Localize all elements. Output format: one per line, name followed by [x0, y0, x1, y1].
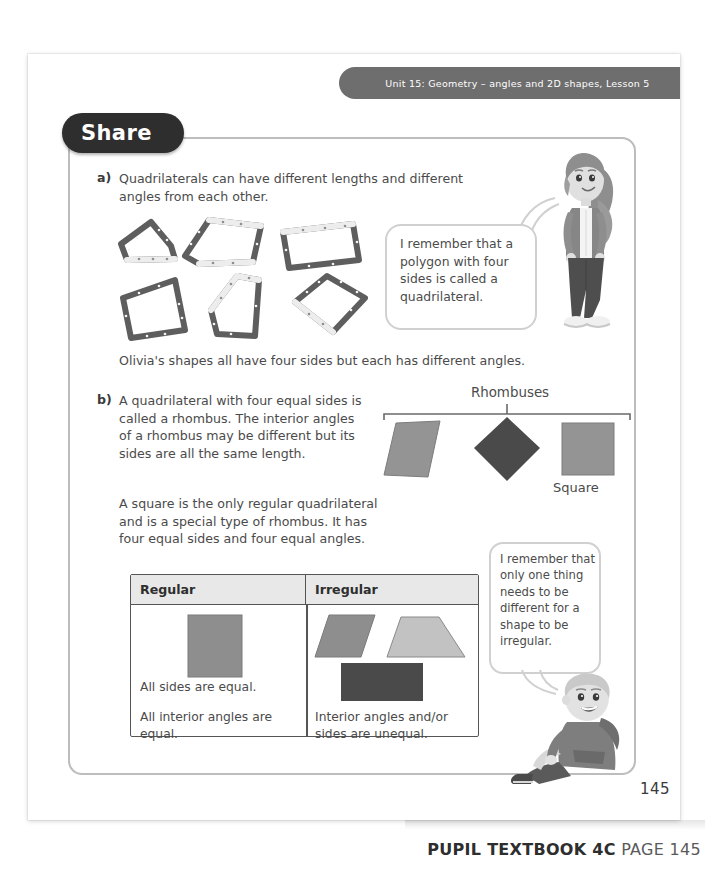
geostrip-shape-5 [211, 276, 259, 336]
slanted-parallelogram-rhombus [384, 421, 440, 477]
regular-irregular-table: Regular Irregular All sides are equal. A… [130, 574, 479, 737]
sheet-shadow [405, 820, 705, 830]
irregular-cell-shapes [313, 611, 473, 711]
share-label: Share [81, 121, 152, 145]
part-a-text: Quadrilaterals can have different length… [119, 170, 479, 205]
speech-bubble-boy-text: I remember that only one thing needs to … [500, 551, 600, 649]
diamond-rhombus [474, 417, 540, 481]
boy-character-illustration [505, 670, 645, 788]
part-a-marker: a) [97, 170, 111, 185]
speech-bubble-girl: I remember that a polygon with four side… [385, 224, 537, 330]
table-vertical-divider [306, 605, 308, 736]
regular-cell-line-2: All interior angles are equal. [140, 709, 300, 742]
bottom-caption: PUPIL TEXTBOOK 4C PAGE 145 [427, 840, 701, 859]
part-b-marker: b) [97, 392, 112, 407]
part-b-text-2: A square is the only regular quadrilater… [119, 495, 384, 548]
light-grey-trapezium [387, 617, 465, 657]
geostrip-shape-3 [283, 224, 359, 268]
square-label: Square [553, 480, 599, 495]
speech-bubble-girl-text: I remember that a polygon with four side… [400, 235, 530, 305]
geostrip-shape-6 [295, 276, 365, 332]
irregular-cell-line-1: Interior angles and/or sides are unequal… [315, 709, 473, 742]
regular-cell-line-1: All sides are equal. [140, 679, 300, 696]
share-section-pill: Share [62, 113, 184, 153]
girl-character-illustration [536, 140, 634, 336]
unit-banner: Unit 15: Geometry – angles and 2D shapes… [339, 67, 680, 99]
geostrip-shape-2 [185, 220, 261, 264]
square-rhombus [562, 423, 614, 475]
olivia-caption: Olivia's shapes all have four sides but … [119, 352, 549, 370]
geostrip-shape-1 [121, 222, 175, 260]
geostrip-shape-4 [123, 280, 185, 338]
geostrip-quadrilaterals-image [113, 214, 381, 346]
grey-parallelogram [315, 615, 375, 657]
rhombus-shapes-row [382, 415, 632, 483]
caption-book-title: PUPIL TEXTBOOK 4C [427, 840, 616, 859]
unit-banner-label: Unit 15: Geometry – angles and 2D shapes… [385, 78, 649, 89]
page-number: 145 [640, 780, 670, 798]
caption-page: PAGE 145 [621, 840, 701, 859]
table-header-regular: Regular [131, 575, 306, 605]
table-header-irregular: Irregular [306, 575, 478, 605]
speech-bubble-boy: I remember that only one thing needs to … [489, 542, 601, 674]
rhombuses-bracket-label: Rhombuses [430, 385, 590, 400]
regular-cell-shape [186, 613, 248, 683]
dark-grey-rectangle [341, 663, 423, 701]
part-b-text: A quadrilateral with four equal sides is… [119, 392, 369, 462]
